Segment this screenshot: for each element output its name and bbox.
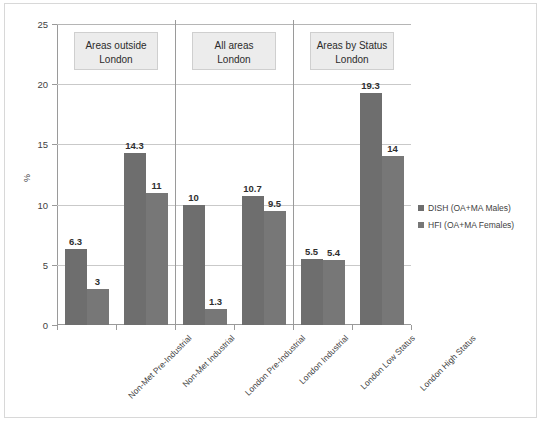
- bar-value-label: 5.4: [327, 247, 340, 258]
- gridline: [57, 265, 411, 266]
- legend-label: HFI (OA+MA Females): [428, 220, 514, 230]
- bar: [242, 196, 264, 325]
- legend-item[interactable]: DISH (OA+MA Males): [418, 203, 514, 213]
- chart-legend: DISH (OA+MA Males)HFI (OA+MA Females): [418, 203, 514, 237]
- bar: [205, 309, 227, 325]
- y-axis-tick-label: 15: [18, 139, 48, 150]
- gridline: [57, 144, 411, 145]
- y-axis-tick-label: 10: [18, 199, 48, 210]
- legend-label: DISH (OA+MA Males): [428, 203, 511, 213]
- x-axis-tick: [411, 325, 412, 330]
- bar: [264, 211, 286, 325]
- legend-swatch-icon: [418, 222, 424, 228]
- bar-value-label: 9.5: [268, 198, 281, 209]
- bar: [65, 249, 87, 325]
- bar: [382, 156, 404, 325]
- bar: [87, 289, 109, 325]
- bar-value-label: 14: [387, 143, 398, 154]
- group-header-box: All areas London: [192, 32, 276, 70]
- y-axis-tick: [52, 265, 57, 266]
- y-axis-tick-label: 0: [18, 320, 48, 331]
- group-header-box: Areas by Status London: [310, 32, 394, 70]
- y-axis-tick: [52, 84, 57, 85]
- bar: [146, 193, 168, 325]
- gridline: [57, 84, 411, 85]
- bar-value-label: 10: [188, 192, 199, 203]
- bar: [124, 153, 146, 325]
- y-axis-tick-label: 25: [18, 19, 48, 30]
- bar: [360, 93, 382, 325]
- y-axis-tick: [52, 144, 57, 145]
- group-separator: [293, 20, 294, 330]
- y-axis-tick-label: 20: [18, 79, 48, 90]
- y-axis-tick: [52, 205, 57, 206]
- gridline: [57, 205, 411, 206]
- x-axis-tick: [352, 325, 353, 330]
- bar-value-label: 1.3: [209, 296, 222, 307]
- bar-value-label: 10.7: [243, 183, 262, 194]
- bar-value-label: 3: [95, 276, 100, 287]
- y-axis-title: %: [22, 174, 32, 182]
- gridline: [57, 24, 411, 25]
- bar: [183, 205, 205, 325]
- chart-figure: % 0510152025 6.3314.311101.310.79.55.55.…: [0, 0, 542, 440]
- plot-area: 0510152025 6.3314.311101.310.79.55.55.41…: [57, 24, 411, 325]
- y-axis-tick: [52, 24, 57, 25]
- group-header-box: Areas outside London: [74, 32, 158, 70]
- bar-value-label: 5.5: [305, 246, 318, 257]
- x-axis-tick: [57, 325, 58, 330]
- bar: [301, 259, 323, 325]
- x-axis-tick: [234, 325, 235, 330]
- bar-value-label: 19.3: [361, 80, 380, 91]
- bar-value-label: 14.3: [125, 140, 144, 151]
- bar: [323, 260, 345, 325]
- legend-item[interactable]: HFI (OA+MA Females): [418, 220, 514, 230]
- y-axis-tick-label: 5: [18, 259, 48, 270]
- bar-value-label: 11: [151, 180, 161, 191]
- x-axis-tick: [116, 325, 117, 330]
- bar-value-label: 6.3: [69, 236, 82, 247]
- group-separator: [175, 20, 176, 330]
- legend-swatch-icon: [418, 205, 424, 211]
